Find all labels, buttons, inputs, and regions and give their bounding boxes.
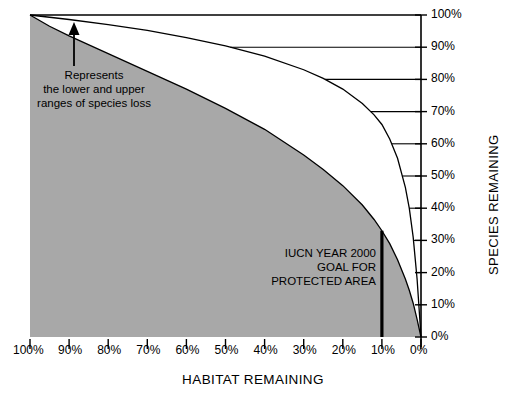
y-tick-label-0pct: 0% [431, 329, 448, 343]
iucn-annotation-line-2: GOAL FOR [228, 260, 376, 274]
y-tick-label-80pct: 80% [431, 71, 455, 85]
y-tick-label-70pct: 70% [431, 104, 455, 118]
x-tick-label-100pct: 100% [13, 343, 44, 357]
range-annotation-line-1: Represents [14, 68, 174, 82]
x-tick-label-90pct: 90% [58, 343, 82, 357]
iucn-annotation-line-3: PROTECTED AREA [228, 274, 376, 288]
y-axis-title: SPECIES REMAINING [486, 135, 501, 275]
y-tick-label-30pct: 30% [431, 232, 455, 246]
y-tick-label-100pct: 100% [431, 7, 462, 21]
x-tick-label-80pct: 80% [97, 343, 121, 357]
x-tick-label-50pct: 50% [215, 343, 239, 357]
x-tick-label-40pct: 40% [254, 343, 278, 357]
x-tick-label-70pct: 70% [136, 343, 160, 357]
y-tick-label-20pct: 20% [431, 265, 455, 279]
y-tick-label-10pct: 10% [431, 297, 455, 311]
x-axis-title: HABITAT REMAINING [0, 372, 506, 387]
y-tick-label-90pct: 90% [431, 39, 455, 53]
y-tick-label-50pct: 50% [431, 168, 455, 182]
x-tick-label-60pct: 60% [175, 343, 199, 357]
shaded-species-loss-region [30, 15, 421, 337]
range-annotation-line-3: ranges of species loss [14, 96, 174, 110]
range-annotation-arrow-head [69, 22, 80, 35]
y-tick-label-60pct: 60% [431, 136, 455, 150]
x-tick-label-10pct: 10% [371, 343, 395, 357]
x-tick-label-30pct: 30% [293, 343, 317, 357]
x-tick-label-0pct: 0% [410, 343, 427, 357]
iucn-goal-annotation: IUCN YEAR 2000 GOAL FOR PROTECTED AREA [228, 246, 376, 288]
iucn-annotation-line-1: IUCN YEAR 2000 [228, 246, 376, 260]
range-annotation-line-2: the lower and upper [14, 82, 174, 96]
y-tick-label-40pct: 40% [431, 200, 455, 214]
range-annotation: Represents the lower and upper ranges of… [14, 68, 174, 110]
x-tick-label-20pct: 20% [332, 343, 356, 357]
chart-figure: 100%90%80%70%60%50%40%30%20%10%0% 100%90… [0, 0, 506, 399]
